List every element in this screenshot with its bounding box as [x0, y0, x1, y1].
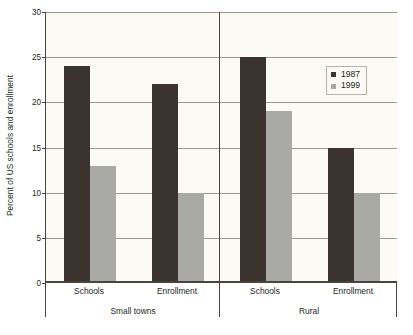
x-axis-category-label: Enrollment	[333, 286, 373, 296]
group-divider	[219, 12, 220, 317]
x-axis-group-label: Rural	[299, 306, 319, 316]
bar-1999-small-towns-schools	[90, 166, 116, 283]
y-axis-tick-label: 20	[32, 98, 41, 107]
y-axis-tick-label: 10	[32, 188, 41, 197]
y-axis-tick-mark	[42, 57, 46, 58]
y-axis-title-text: Percent of US schools and enrollment	[7, 74, 16, 215]
bar-1987-rural-schools	[240, 57, 266, 283]
legend-label-1999: 1999	[341, 81, 360, 90]
bar-1999-small-towns-enrollment	[178, 193, 204, 283]
bar-1987-rural-enrollment	[328, 148, 354, 284]
x-axis-group-label: Small towns	[110, 306, 155, 316]
x-axis-line	[46, 281, 397, 283]
bar-chart: Percent of US schools and enrollment 051…	[0, 0, 413, 335]
x-axis-category-label: Enrollment	[157, 286, 197, 296]
chart-legend: 1987 1999	[326, 66, 367, 95]
x-axis-category-label: Schools	[250, 286, 280, 296]
x-axis-category-label: Schools	[74, 286, 104, 296]
bar-1987-small-towns-schools	[64, 66, 90, 283]
y-axis-title: Percent of US schools and enrollment	[0, 0, 22, 290]
legend-swatch-icon-1999	[331, 84, 336, 89]
y-axis-tick-label: 0	[36, 279, 41, 288]
x-axis-group-labels: Small townsRural	[45, 306, 397, 322]
y-axis-tick-labels: 051015202530	[20, 12, 44, 283]
bar-1999-rural-enrollment	[354, 193, 380, 283]
plot-area	[45, 12, 397, 283]
legend-swatch-icon-1987	[331, 72, 336, 77]
y-axis-tick-label: 15	[32, 143, 41, 152]
y-axis-tick-mark	[42, 238, 46, 239]
y-axis-tick-mark	[42, 102, 46, 103]
bar-1999-rural-schools	[266, 111, 292, 283]
legend-label-1987: 1987	[341, 70, 360, 79]
y-axis-tick-mark	[42, 193, 46, 194]
y-axis-tick-label: 30	[32, 8, 41, 17]
y-axis-tick-label: 5	[36, 233, 41, 242]
y-axis-tick-mark	[42, 12, 46, 13]
y-axis-tick-mark	[42, 148, 46, 149]
x-axis-category-labels: SchoolsEnrollmentSchoolsEnrollment	[45, 286, 397, 302]
y-axis-tick-label: 25	[32, 53, 41, 62]
bar-1987-small-towns-enrollment	[152, 84, 178, 283]
legend-item-1987[interactable]: 1987	[331, 70, 360, 79]
bars-layer	[46, 12, 397, 283]
legend-item-1999[interactable]: 1999	[331, 81, 360, 90]
